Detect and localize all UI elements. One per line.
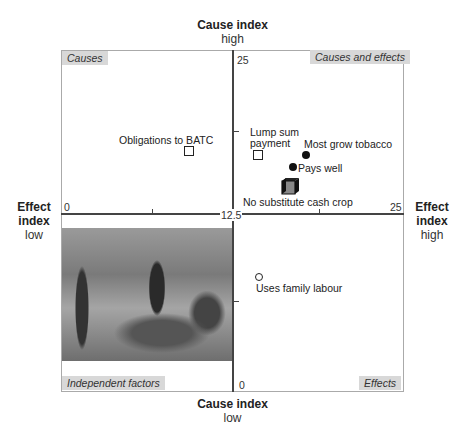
y-tick-0-label: 0: [239, 379, 245, 391]
quadrant-label-independent-factors: Independent factors: [62, 376, 165, 390]
open-square-marker: [184, 146, 194, 156]
y-tick-6-25: [234, 301, 239, 302]
bottom-axis-title: Cause index: [180, 397, 285, 411]
point-label-lump-sum-2: payment: [250, 138, 290, 149]
x-tick-25-label: 25: [390, 201, 402, 213]
top-axis-title: Cause index: [180, 18, 285, 32]
left-axis-sub: low: [10, 228, 58, 242]
point-label-no-substitute: No substitute cash crop: [243, 197, 353, 208]
x-tick-0-label: 0: [64, 201, 70, 213]
x-tick-18-75: [319, 209, 320, 214]
top-axis-sub: high: [180, 32, 285, 46]
point-label-pays-well: Pays well: [298, 163, 342, 174]
right-axis-sub: high: [408, 228, 456, 242]
filled-circle-marker: [302, 151, 310, 159]
point-label-obligations: Obligations to BATC: [119, 135, 213, 146]
open-square-marker: [253, 150, 263, 160]
center-tick-label: 12.5: [220, 209, 242, 221]
filled-circle-marker: [289, 163, 297, 171]
tobacco-workers-photo: [62, 228, 234, 361]
x-tick-6-25: [152, 209, 153, 214]
bottom-axis-sub: low: [180, 411, 285, 425]
left-axis-label: Effect index low: [10, 200, 58, 242]
quadrant-label-causes-and-effects: Causes and effects: [310, 50, 410, 64]
quadrant-label-effects: Effects: [359, 376, 401, 390]
open-circle-marker: [255, 273, 263, 281]
right-axis-title-1: Effect: [408, 200, 456, 214]
cause-axis-line: [232, 50, 234, 392]
right-axis-title-2: index: [408, 214, 456, 228]
left-axis-title-2: index: [10, 214, 58, 228]
quadrant-label-causes: Causes: [62, 51, 108, 65]
point-label-most-grow-tobacco: Most grow tobacco: [304, 139, 392, 150]
cube-marker: [280, 177, 300, 195]
left-axis-title-1: Effect: [10, 200, 58, 214]
y-tick-25-label: 25: [237, 54, 249, 66]
y-tick-18-75: [234, 131, 239, 132]
point-label-family-labour: Uses family labour: [256, 283, 342, 294]
right-axis-label: Effect index high: [408, 200, 456, 242]
